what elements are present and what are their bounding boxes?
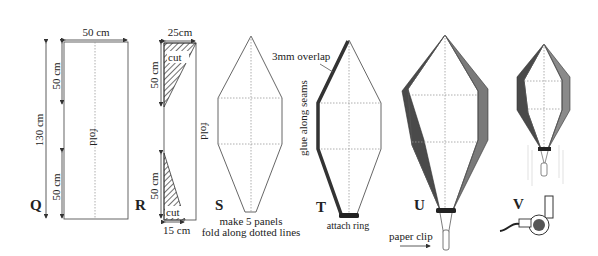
paper-clip [541, 163, 547, 176]
top-length-label: 50 cm [50, 62, 62, 90]
figure-label-s: S [215, 197, 223, 213]
paper-clip-label: paper clip [389, 230, 433, 242]
figure-q: 50 cm 130 cm 50 cm 50 cm fold Q [30, 26, 128, 219]
caption-line-2: fold along dotted lines [202, 226, 301, 238]
bottom-cut-label: cut [166, 206, 179, 218]
figure-t: 3mm overlap glue along seams attach ring… [272, 40, 381, 231]
top-length-label: 50 cm [148, 61, 160, 89]
hair-dryer-icon [500, 196, 553, 235]
figure-s: S make 5 panels fold along dotted lines [202, 36, 301, 238]
balloon-panel [218, 36, 282, 212]
bottom-length-label: 50 cm [148, 172, 160, 200]
right-panel-shaded [445, 35, 488, 210]
left-panel-shaded [402, 35, 445, 210]
bottom-length-label: 50 cm [50, 173, 62, 201]
paper-clip [443, 230, 449, 250]
attach-ring-label: attach ring [327, 220, 369, 231]
top-width-label: 25cm [168, 26, 193, 38]
ring [436, 208, 456, 213]
glued-seam [318, 41, 348, 214]
glue-label: glue along seams [297, 80, 309, 156]
figure-r: cut cut 25cm 50 cm 50 cm 15 cm fold R [135, 26, 211, 236]
figure-v: V [500, 44, 570, 235]
fold-label: fold [199, 122, 211, 140]
ring [339, 213, 359, 218]
figure-label-v: V [513, 196, 524, 212]
figure-label-u: U [414, 197, 425, 213]
overlap-leader-line [320, 64, 333, 72]
bottom-width-label: 15 cm [163, 224, 191, 236]
figure-label-q: Q [30, 197, 42, 213]
hot-air-balloon-construction-diagram: 50 cm 130 cm 50 cm 50 cm fold Q cut cut … [0, 0, 598, 256]
right-panel-shaded [544, 44, 570, 149]
top-cut-label: cut [168, 51, 181, 63]
figure-label-t: T [316, 199, 326, 215]
fold-label: fold [88, 128, 100, 146]
balloon-panels [318, 40, 381, 214]
ring [538, 147, 551, 151]
height-label: 130 cm [33, 113, 45, 146]
overlap-label: 3mm overlap [272, 50, 331, 62]
left-panel-shaded [517, 44, 544, 149]
figure-label-r: R [135, 197, 146, 213]
figure-u: paper clip U [389, 35, 488, 250]
width-label: 50 cm [82, 26, 110, 38]
